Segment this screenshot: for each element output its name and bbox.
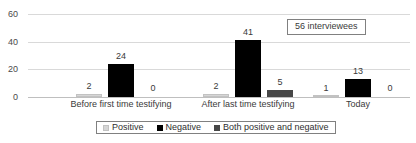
- y-axis-tick-label: 40: [0, 38, 18, 47]
- bar-value-label: 24: [101, 52, 141, 61]
- bar-slot: 2: [76, 14, 102, 97]
- bar: [108, 64, 134, 97]
- bar-value-label: 0: [133, 84, 173, 93]
- bar: [203, 94, 229, 97]
- bar-slot: 2: [203, 14, 229, 97]
- legend-swatch-icon: [103, 125, 109, 131]
- legend-item[interactable]: Negative: [157, 123, 202, 132]
- bar-slot: 24: [108, 14, 134, 97]
- bar-value-label: 1: [306, 84, 346, 93]
- bar: [76, 94, 102, 97]
- bar-value-label: 2: [69, 82, 109, 91]
- bar: [267, 90, 293, 97]
- legend-label: Negative: [166, 123, 202, 132]
- legend-label: Both positive and negative: [223, 123, 329, 132]
- y-axis-tick-label: 0: [0, 93, 18, 102]
- y-axis-tick-label: 20: [0, 65, 18, 74]
- legend-swatch-icon: [157, 125, 163, 131]
- bar-value-label: 13: [338, 67, 378, 76]
- bar-value-label: 2: [196, 82, 236, 91]
- bar-slot: 0: [140, 14, 166, 97]
- bar-group: 2415: [196, 14, 300, 97]
- bar: [313, 95, 339, 97]
- bar-value-label: 41: [228, 28, 268, 37]
- gridline-0: [28, 97, 410, 98]
- legend-item[interactable]: Both positive and negative: [214, 123, 329, 132]
- bar-slot: 41: [235, 14, 261, 97]
- bar-slot: 0: [377, 14, 403, 97]
- interviewees-annotation: 56 interviewees: [287, 19, 366, 35]
- bar: [235, 40, 261, 97]
- x-axis-category-labels: Before first time testifyingAfter last t…: [28, 100, 410, 114]
- legend-label: Positive: [112, 123, 144, 132]
- bar: [345, 79, 371, 97]
- bar-value-label: 0: [370, 84, 410, 93]
- bar-value-label: 5: [260, 78, 300, 87]
- x-axis-category-label: Today: [278, 100, 416, 109]
- bar-chart: 6040200 224024151130 Before first time t…: [0, 0, 416, 143]
- legend-swatch-icon: [214, 125, 220, 131]
- legend-item[interactable]: Positive: [103, 123, 144, 132]
- y-axis-tick-label: 60: [0, 10, 18, 19]
- chart-legend: PositiveNegativeBoth positive and negati…: [96, 121, 336, 134]
- bar-group: 2240: [69, 14, 173, 97]
